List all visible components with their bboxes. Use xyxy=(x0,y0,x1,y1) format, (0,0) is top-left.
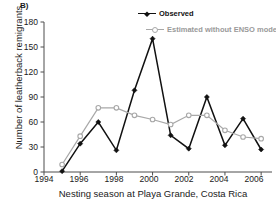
data-point-observed-2003 xyxy=(204,95,209,100)
series-line-observed xyxy=(62,39,261,172)
data-point-observed-2000 xyxy=(150,36,155,41)
data-point-estimated-1999 xyxy=(132,113,137,118)
data-point-estimated-2001 xyxy=(168,122,173,127)
data-point-estimated-1996 xyxy=(78,134,83,139)
data-point-estimated-2006 xyxy=(259,136,264,141)
data-point-estimated-2004 xyxy=(223,128,228,133)
data-point-estimated-1998 xyxy=(114,106,119,111)
data-point-estimated-2005 xyxy=(241,135,246,140)
data-point-estimated-2000 xyxy=(150,117,155,122)
plot-area xyxy=(0,0,276,205)
data-point-estimated-2003 xyxy=(205,113,210,118)
data-point-estimated-1997 xyxy=(96,106,101,111)
data-point-estimated-2002 xyxy=(186,113,191,118)
data-point-estimated-1995 xyxy=(60,162,65,167)
data-point-observed-1999 xyxy=(132,88,137,93)
figure-panel-b: B) Number of leatherback remigrants Nest… xyxy=(0,0,276,205)
